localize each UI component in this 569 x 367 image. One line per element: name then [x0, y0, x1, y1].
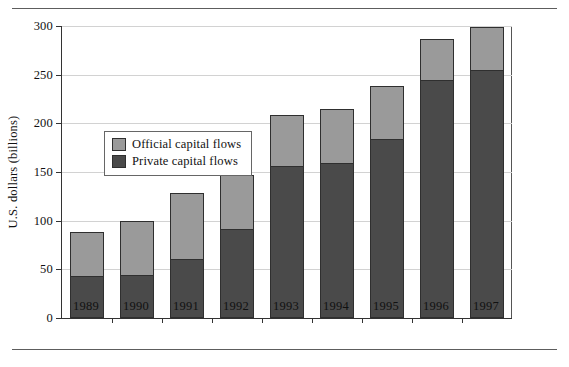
bar-segment-official-1997 — [471, 28, 503, 70]
bar-1992 — [220, 175, 254, 318]
y-axis-title: U.S. dollars (billions) — [6, 26, 24, 318]
bar-1996 — [420, 39, 454, 318]
y-tick-0 — [56, 318, 62, 319]
y-tick-label-150: 150 — [34, 165, 53, 180]
x-tick-6 — [412, 318, 413, 323]
legend-label-private: Private capital flows — [132, 154, 238, 169]
bar-1993 — [270, 115, 304, 318]
bar-1997 — [470, 27, 504, 318]
legend-label-official: Official capital flows — [132, 137, 241, 152]
bar-segment-official-1994 — [321, 110, 353, 163]
bottom-rule — [12, 349, 557, 350]
y-tick-50 — [56, 269, 62, 270]
bar-segment-private-1995 — [371, 139, 403, 317]
y-tick-label-0: 0 — [47, 311, 53, 326]
x-tick-7 — [462, 318, 463, 323]
bar-segment-official-1995 — [371, 87, 403, 139]
y-tick-label-100: 100 — [34, 213, 53, 228]
bar-1995 — [370, 86, 404, 318]
x-tick-3 — [262, 318, 263, 323]
bar-segment-official-1989 — [71, 233, 103, 276]
y-tick-100 — [56, 221, 62, 222]
bar-segment-official-1990 — [121, 222, 153, 275]
bar-segment-private-1997 — [471, 70, 503, 317]
legend-swatch-private — [112, 155, 126, 168]
y-tick-300 — [56, 26, 62, 27]
legend-item-official: Official capital flows — [112, 136, 241, 153]
chart-legend: Official capital flows Private capital f… — [104, 131, 252, 176]
bar-1994 — [320, 109, 354, 318]
legend-swatch-official — [112, 138, 126, 151]
top-rule — [12, 8, 557, 9]
x-tick-5 — [362, 318, 363, 323]
y-tick-label-300: 300 — [34, 19, 53, 34]
bar-segment-official-1992 — [221, 176, 253, 229]
y-tick-250 — [56, 75, 62, 76]
x-tick-4 — [312, 318, 313, 323]
y-tick-150 — [56, 172, 62, 173]
gridline-300 — [62, 26, 512, 27]
x-tick-0 — [112, 318, 113, 323]
chart-figure: U.S. dollars (billions) 0501001502002503… — [0, 0, 569, 367]
y-tick-label-200: 200 — [34, 116, 53, 131]
x-tick-label-1997: 1997 — [456, 299, 516, 314]
legend-item-private: Private capital flows — [112, 153, 241, 170]
bar-segment-private-1996 — [421, 80, 453, 317]
y-tick-200 — [56, 123, 62, 124]
bar-segment-private-1994 — [321, 163, 353, 317]
x-tick-2 — [212, 318, 213, 323]
y-tick-label-50: 50 — [40, 262, 53, 277]
bar-segment-official-1993 — [271, 116, 303, 166]
bar-segment-official-1996 — [421, 40, 453, 81]
y-tick-label-250: 250 — [34, 67, 53, 82]
x-tick-1 — [162, 318, 163, 323]
bar-segment-official-1991 — [171, 194, 203, 258]
bar-segment-private-1993 — [271, 166, 303, 317]
